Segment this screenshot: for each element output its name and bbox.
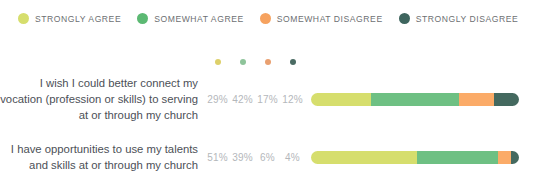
bar-segment-somewhat-disagree [498, 151, 510, 164]
legend-item-strongly-disagree: STRONGLY DISAGREE [399, 13, 519, 24]
legend-dot-icon [260, 13, 271, 24]
row-percent-labels: 51% 39% 6% 4% [205, 152, 305, 163]
percent-value: 42% [230, 94, 255, 105]
legend-label: SOMEWHAT AGREE [154, 14, 244, 24]
chart-legend: STRONGLY AGREE SOMEWHAT AGREE SOMEWHAT D… [18, 13, 534, 24]
legend-label: STRONGLY AGREE [35, 14, 121, 24]
legend-label: STRONGLY DISAGREE [416, 14, 519, 24]
percent-value: 51% [205, 152, 230, 163]
percent-column-marker-cell [280, 59, 305, 65]
stacked-bar [311, 151, 519, 164]
legend-item-somewhat-disagree: SOMEWHAT DISAGREE [260, 13, 383, 24]
bar-segment-somewhat-disagree [459, 93, 494, 106]
bar-segment-somewhat-agree [417, 151, 498, 164]
bar-segment-somewhat-agree [371, 93, 458, 106]
bar-segment-strongly-agree [311, 93, 371, 106]
legend-dot-icon [18, 13, 29, 24]
legend-item-strongly-agree: STRONGLY AGREE [18, 13, 121, 24]
percent-column-markers [205, 59, 305, 65]
column-marker-dot-icon [265, 59, 271, 65]
percent-column-marker-cell [255, 59, 280, 65]
percent-value: 6% [255, 152, 280, 163]
row-percent-labels: 29% 42% 17% 12% [205, 94, 305, 105]
column-marker-dot-icon [240, 59, 246, 65]
bar-segment-strongly-disagree [511, 151, 519, 164]
chart-row: I have opportunities to use my talents a… [0, 130, 536, 181]
stacked-bar [311, 93, 519, 106]
bar-segment-strongly-agree [311, 151, 417, 164]
percent-column-marker-cell [230, 59, 255, 65]
legend-dot-icon [137, 13, 148, 24]
legend-label: SOMEWHAT DISAGREE [277, 14, 383, 24]
column-marker-dot-icon [290, 59, 296, 65]
percent-value: 12% [280, 94, 305, 105]
percent-value: 4% [280, 152, 305, 163]
row-label: I wish I could better connect my vocatio… [0, 75, 198, 123]
percent-value: 39% [230, 152, 255, 163]
row-label: I have opportunities to use my talents a… [0, 141, 198, 173]
percent-value: 17% [255, 94, 280, 105]
chart-rows: I wish I could better connect my vocatio… [0, 72, 536, 181]
column-marker-dot-icon [215, 59, 221, 65]
chart-row: I wish I could better connect my vocatio… [0, 72, 536, 126]
legend-item-somewhat-agree: SOMEWHAT AGREE [137, 13, 244, 24]
percent-column-marker-cell [205, 59, 230, 65]
bar-segment-strongly-disagree [494, 93, 519, 106]
percent-value: 29% [205, 94, 230, 105]
legend-dot-icon [399, 13, 410, 24]
